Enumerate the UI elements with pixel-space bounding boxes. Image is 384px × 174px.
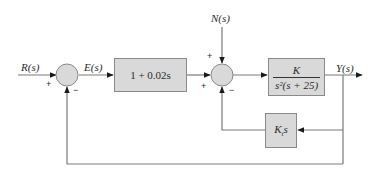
summing-junction-1: [56, 64, 78, 86]
plant-transfer-function: K s²(s + 25): [273, 64, 320, 91]
controller-block: 1 + 0.02s: [114, 58, 187, 92]
disturbance-signal-label: N(s): [211, 13, 230, 24]
summing-junction-2: [211, 64, 233, 86]
sum1-minus-sign: −: [73, 86, 78, 95]
block-diagram: R(s) E(s) N(s) Y(s) + − + + − 1 + 0.02s …: [0, 0, 384, 174]
sum2-top-plus-sign: +: [207, 52, 212, 61]
controller-transfer-function: 1 + 0.02s: [130, 69, 171, 81]
tach-gain-main: K: [274, 123, 281, 135]
tach-gain-label: Kts: [274, 123, 288, 138]
outer-loop-wire: [67, 87, 343, 164]
sum1-plus-sign: +: [46, 80, 51, 89]
input-signal-label: R(s): [21, 62, 39, 73]
plant-numerator: K: [289, 64, 304, 77]
output-signal-label: Y(s): [336, 63, 354, 74]
diagram-wires: [0, 0, 384, 174]
error-signal-label: E(s): [84, 62, 102, 73]
plant-block: K s²(s + 25): [268, 58, 325, 96]
plant-denominator: s²(s + 25): [273, 78, 320, 91]
sum2-left-plus-sign: +: [201, 82, 206, 91]
tach-gain-suffix: s: [284, 123, 288, 135]
sum2-minus-sign: −: [229, 86, 234, 95]
tach-feedback-block: Kts: [265, 113, 297, 148]
